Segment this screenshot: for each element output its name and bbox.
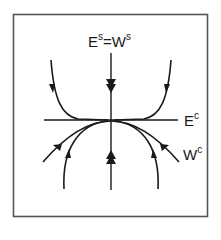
center-manifold-right bbox=[111, 121, 179, 162]
stable-label-base2: W bbox=[112, 33, 126, 50]
center-subspace-label: Ec bbox=[184, 113, 199, 128]
stable-label-sup2: s bbox=[126, 31, 131, 42]
stable-arrow-bottom-icon bbox=[106, 150, 116, 164]
stable-label-eq: = bbox=[103, 33, 112, 50]
trajectory-upper-right bbox=[114, 60, 171, 120]
trajectory-lower-left bbox=[64, 121, 108, 189]
stable-label-sup: s bbox=[98, 31, 103, 42]
center-manifold-label: Wc bbox=[183, 147, 202, 162]
center-manifold-label-sup: c bbox=[197, 144, 202, 155]
trajectory-lower-right bbox=[114, 121, 158, 189]
stable-arrow-top-icon bbox=[106, 79, 116, 93]
center-subspace-label-base: E bbox=[184, 112, 194, 129]
center-subspace-label-sup: c bbox=[194, 110, 199, 121]
center-manifold-left bbox=[43, 121, 111, 162]
stable-label-base: E bbox=[88, 33, 98, 50]
center-manifold-label-base: W bbox=[183, 146, 197, 163]
stable-manifold-label: Es=Ws bbox=[88, 34, 131, 49]
trajectory-upper-left bbox=[51, 60, 108, 120]
